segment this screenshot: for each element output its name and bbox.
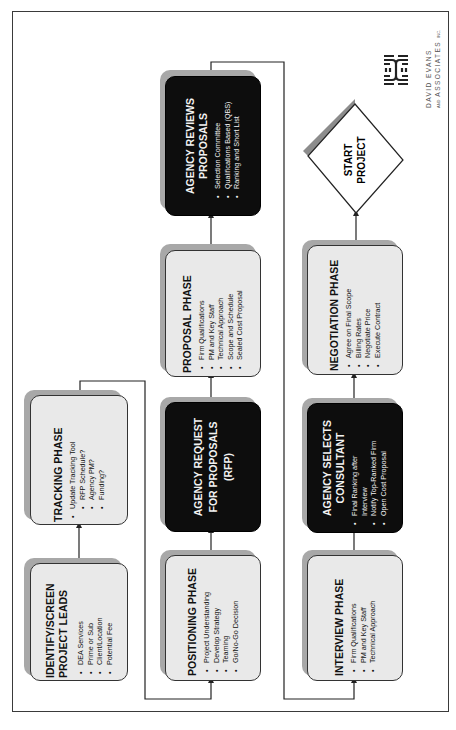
- start-project-label: STARTPROJECT: [330, 140, 380, 180]
- bullet: Firm Qualifications: [349, 560, 359, 672]
- bullet: DEA Services: [76, 566, 86, 674]
- bullet: Ranking and Short List: [232, 80, 242, 198]
- bullet: Negotiate Price: [363, 249, 373, 367]
- bullet: PM and Key Staff: [207, 255, 217, 369]
- bullet: Agree on Final Scope: [344, 249, 354, 367]
- bullet: Technical Approach: [368, 560, 378, 672]
- node-title: INTERVIEW PHASE: [333, 560, 346, 676]
- node-title: AGENCY REQUESTFOR PROPOSALS(RFP): [191, 407, 236, 527]
- company-name-line1: DAVID EVANS: [425, 49, 432, 108]
- node-title: IDENTIFY/SCREENPROJECT LEADS: [44, 566, 70, 678]
- sub-bullet: Funding?: [97, 398, 107, 518]
- bullet: Final Ranking afterInterview: [350, 407, 369, 525]
- bullet: Update Tracking Tool: [68, 398, 78, 518]
- node-agency-selects-consultant: AGENCY SELECTSCONSULTANT Final Ranking a…: [307, 403, 403, 533]
- node-title: AGENCY SELECTSCONSULTANT: [321, 407, 347, 529]
- node-agency-request-for-proposals: AGENCY REQUESTFOR PROPOSALS(RFP): [165, 402, 261, 532]
- bullet: Technical Approach: [216, 255, 226, 369]
- bullet: Notify Top-Ranked Firm: [370, 407, 380, 525]
- node-agency-reviews-proposals: AGENCY REVIEWSPROPOSALS Selection Commit…: [165, 76, 261, 216]
- bullet: Teaming: [221, 560, 231, 672]
- bullet: Open Cost Proposal: [379, 407, 389, 525]
- bullet: PM and Key Staff: [358, 560, 368, 672]
- node-interview-phase: INTERVIEW PHASE Firm Qualifications PM a…: [307, 555, 403, 681]
- company-logo: DAVID EVANS AND ASSOCIATES INC.: [372, 44, 452, 114]
- company-name-line2: AND ASSOCIATES INC.: [434, 30, 441, 108]
- node-proposal-phase: PROPOSAL PHASE Firm Qualifications PM an…: [165, 250, 261, 377]
- sub-bullet: Agency PM?: [87, 398, 97, 518]
- bullet: Project Understanding: [202, 560, 212, 672]
- node-title: PROPOSAL PHASE: [181, 255, 194, 373]
- bullet: Scope and Schedule: [226, 255, 236, 369]
- node-title: POSITIONING PHASE: [186, 560, 199, 676]
- bullet: Qualifications Based (QBS): [223, 80, 233, 198]
- node-negotiation-phase: NEGOTIATION PHASE Agree on Final Scope B…: [307, 245, 403, 375]
- bullet: Potential Fee: [105, 566, 115, 674]
- bullet: Execute Contract: [373, 249, 383, 367]
- bullet: Client/Location: [95, 566, 105, 674]
- node-identify-screen-leads: IDENTIFY/SCREENPROJECT LEADS DEA Service…: [30, 563, 128, 681]
- node-title: TRACKING PHASE: [52, 398, 65, 522]
- bullet: Prime or Sub: [85, 566, 95, 674]
- sub-bullet: RFP Schedule?: [77, 398, 87, 518]
- bullet: Go/No-Go Decision: [231, 560, 241, 672]
- node-title: AGENCY REVIEWSPROPOSALS: [184, 80, 210, 212]
- bullet: Billing Rates: [353, 249, 363, 367]
- dea-logo-icon: [382, 54, 410, 86]
- node-tracking-phase: TRACKING PHASE Update Tracking Tool RFP …: [30, 395, 128, 525]
- bullet: Firm Qualifications: [197, 255, 207, 369]
- bullet: Develop Strategy: [211, 560, 221, 672]
- bullet: Selection Committee: [213, 80, 223, 198]
- node-title: NEGOTIATION PHASE: [328, 249, 341, 371]
- bullet: Sealed Cost Proposal: [235, 255, 245, 369]
- node-positioning-phase: POSITIONING PHASE Project Understanding …: [165, 555, 261, 681]
